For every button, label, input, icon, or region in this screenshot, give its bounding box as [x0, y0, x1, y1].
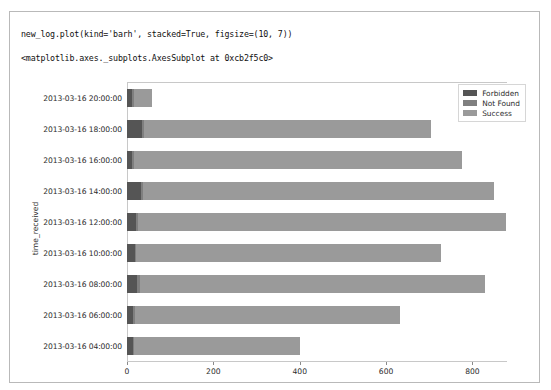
x-tick-label: 0 [125, 367, 130, 376]
bar-segment-success [136, 244, 440, 262]
y-tick-label: 2013-03-16 06:00:00 [35, 311, 127, 320]
bar-segment-success [134, 151, 462, 169]
legend-label: Forbidden [482, 89, 519, 98]
legend-swatch-forbidden [463, 90, 477, 96]
bar-segment-forbidden [127, 120, 142, 138]
bar-segment-success [140, 275, 485, 293]
x-tick-label: 400 [292, 367, 307, 376]
x-tick-label: 200 [206, 367, 221, 376]
bar-row [127, 306, 400, 324]
legend-label: Success [482, 109, 512, 118]
x-tick-mark [300, 362, 301, 365]
notebook-code-cell[interactable]: new_log.plot(kind='barh', stacked=True, … [9, 11, 540, 383]
legend-swatch-not-found [463, 100, 477, 106]
bar-segment-forbidden [127, 275, 137, 293]
x-tick-mark [472, 362, 473, 365]
x-tick-label: 600 [379, 367, 394, 376]
y-tick-label: 2013-03-16 10:00:00 [35, 249, 127, 258]
legend-item: Success [463, 108, 520, 118]
x-tick-mark [386, 362, 387, 365]
y-tick-label: 2013-03-16 18:00:00 [35, 124, 127, 133]
y-tick-label: 2013-03-16 12:00:00 [35, 218, 127, 227]
legend-item: Not Found [463, 98, 520, 108]
x-tick-label: 800 [465, 367, 480, 376]
matplotlib-figure: time_received 2013-03-16 04:00:002013-03… [33, 74, 530, 374]
bar-row [127, 89, 152, 107]
bar-segment-success [135, 306, 400, 324]
legend-item: Forbidden [463, 88, 520, 98]
bar-row [127, 275, 485, 293]
bar-segment-success [134, 89, 152, 107]
y-tick-label: 2013-03-16 04:00:00 [35, 342, 127, 351]
bar-segment-forbidden [127, 213, 136, 231]
bar-row [127, 337, 300, 355]
y-tick-label: 2013-03-16 08:00:00 [35, 280, 127, 289]
chart-legend: ForbiddenNot FoundSuccess [458, 84, 526, 122]
legend-swatch-success [463, 110, 477, 116]
y-axis-ticks: 2013-03-16 04:00:002013-03-16 06:00:0020… [33, 82, 127, 362]
bar-row [127, 182, 494, 200]
bar-segment-forbidden [127, 244, 135, 262]
x-tick-mark [127, 362, 128, 365]
bars-layer [127, 82, 507, 362]
legend-label: Not Found [482, 99, 520, 108]
x-tick-mark [213, 362, 214, 365]
bar-segment-success [134, 337, 299, 355]
bar-row [127, 244, 441, 262]
code-output-text: <matplotlib.axes._subplots.AxesSubplot a… [21, 53, 273, 63]
y-tick-label: 2013-03-16 16:00:00 [35, 155, 127, 164]
bar-segment-success [143, 182, 494, 200]
code-input-line[interactable]: new_log.plot(kind='barh', stacked=True, … [21, 29, 292, 39]
bar-segment-success [138, 213, 505, 231]
bar-segment-success [144, 120, 431, 138]
bar-segment-forbidden [127, 182, 141, 200]
x-axis-ticks: 0200400600800 [127, 362, 507, 380]
y-tick-label: 2013-03-16 14:00:00 [35, 186, 127, 195]
bar-row [127, 151, 462, 169]
bar-row [127, 120, 431, 138]
y-tick-label: 2013-03-16 20:00:00 [35, 93, 127, 102]
bar-row [127, 213, 506, 231]
